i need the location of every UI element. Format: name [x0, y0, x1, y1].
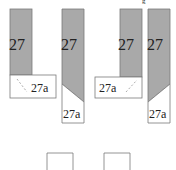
strip-4-sub-label: 27a — [149, 107, 167, 121]
strip-2-main-label: 27 — [61, 36, 77, 53]
strip-4: 27 27a — [147, 9, 170, 123]
strip-1-sub-label: 27a — [31, 81, 49, 95]
strip-1: 27 27a — [9, 9, 56, 98]
bottom-box-1 — [47, 153, 73, 170]
strip-4-main-label: 27 — [147, 36, 163, 53]
top-fragment-text: g — [142, 0, 146, 5]
strip-2-sub-label: 27a — [63, 107, 81, 121]
strip-2: 27 27a — [61, 9, 84, 123]
strip-3-main-label: 27 — [118, 36, 134, 53]
strip-3-sub-label: 27a — [99, 81, 117, 95]
bottom-box-2 — [104, 153, 130, 170]
strip-3: 27 27a — [95, 9, 142, 98]
strip-1-main-label: 27 — [9, 36, 25, 53]
diagram-canvas: g 27 27a 27 27a 27 27a 27 27a — [0, 0, 176, 170]
